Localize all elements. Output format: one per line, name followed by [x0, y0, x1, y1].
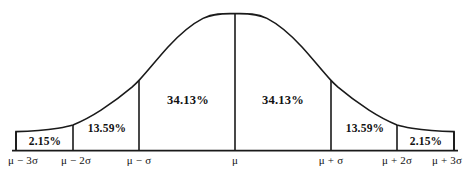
axis-tick-mu: μ: [232, 154, 238, 166]
region-label-left-inner: 34.13%: [167, 93, 209, 108]
axis-tick-mu-plus-1sigma: μ + σ: [319, 154, 344, 166]
axis-tick-mu-plus-3sigma: μ + 3σ: [432, 154, 462, 166]
axis-tick-mu-plus-2sigma: μ + 2σ: [382, 154, 412, 166]
axis-tick-mu-minus-3sigma: μ − 3σ: [8, 154, 38, 166]
region-label-left-mid: 13.59%: [88, 122, 127, 134]
normal-distribution-figure: 2.15% 13.59% 34.13% 34.13% 13.59% 2.15% …: [0, 0, 470, 184]
axis-tick-mu-minus-2sigma: μ − 2σ: [61, 154, 91, 166]
axis-tick-mu-minus-1sigma: μ − σ: [127, 154, 152, 166]
region-label-right-tail: 2.15%: [410, 135, 443, 147]
region-label-left-tail: 2.15%: [29, 135, 62, 147]
region-label-right-inner: 34.13%: [262, 93, 304, 108]
region-label-right-mid: 13.59%: [346, 122, 385, 134]
